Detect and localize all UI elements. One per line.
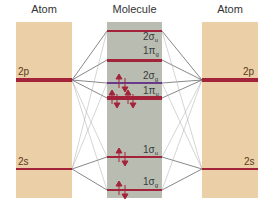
label-1pi-g: 1πg [143, 45, 159, 57]
label-2sigma-u: 2σu [143, 31, 158, 43]
right-2s-label: 2s [244, 156, 255, 167]
left-atom-panel [16, 22, 72, 198]
right-atom-panel [202, 22, 258, 198]
right-2p-level [202, 78, 258, 82]
right-2p-label: 2p [243, 66, 254, 77]
label-2sigma-g: 2σg [143, 70, 158, 82]
mo-diagram [0, 0, 269, 212]
mo-2sigma-g [107, 82, 162, 84]
left-2p-label: 2p [18, 66, 29, 77]
right-2s-level [202, 168, 258, 170]
molecule-header: Molecule [102, 3, 167, 15]
mo-1pi-g [107, 59, 162, 62]
mo-1sigma-u [107, 156, 162, 158]
label-1sigma-u: 1σu [143, 144, 158, 156]
left-2p-level [16, 78, 72, 82]
label-1pi-u: 1πu [143, 85, 159, 97]
left-2s-label: 2s [18, 156, 29, 167]
left-atom-header: Atom [16, 3, 72, 15]
right-atom-header: Atom [202, 3, 258, 15]
label-1sigma-g: 1σg [143, 176, 158, 188]
mo-1sigma-g [107, 189, 162, 191]
left-2s-level [16, 168, 72, 170]
